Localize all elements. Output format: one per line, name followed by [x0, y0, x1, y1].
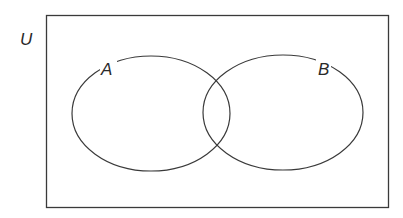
set-b-label: B — [318, 60, 329, 79]
venn-diagram: U A B — [0, 0, 403, 218]
universe-label: U — [20, 30, 33, 49]
universe-rectangle — [47, 16, 389, 208]
set-b-ellipse — [203, 55, 363, 170]
set-a-ellipse — [72, 56, 230, 171]
set-a-label: A — [100, 60, 112, 79]
